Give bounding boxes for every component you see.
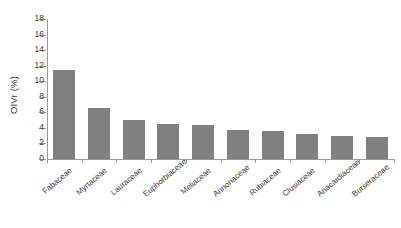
- x-tick-mark: [116, 159, 117, 163]
- bar: [296, 134, 318, 159]
- x-tick-mark: [47, 159, 48, 163]
- bar: [88, 108, 110, 159]
- bar: [157, 124, 179, 159]
- y-tick-label: 14: [35, 44, 44, 55]
- y-tick-label: 2: [39, 137, 44, 148]
- y-axis-title: OIVr (%): [8, 50, 19, 140]
- bar: [192, 125, 214, 159]
- x-tick-mark: [82, 159, 83, 163]
- x-axis-label: Anacardiaceae: [315, 166, 351, 199]
- x-axis-label: Meliaceae: [176, 166, 212, 199]
- x-tick-mark: [394, 159, 395, 163]
- x-axis-label: Euphorbiaceae: [142, 166, 178, 199]
- bar: [53, 70, 75, 159]
- y-tick-label: 16: [35, 29, 44, 40]
- bar: [227, 130, 249, 159]
- x-axis-label: Clusiaceae: [281, 166, 317, 199]
- x-tick-mark: [290, 159, 291, 163]
- bar: [123, 120, 145, 159]
- x-axis-label: Annonaceae: [211, 166, 247, 199]
- x-tick-mark: [151, 159, 152, 163]
- x-axis-label: Fabaceae: [38, 166, 74, 199]
- y-tick-label: 12: [35, 60, 44, 71]
- x-axis-label: Burseraceae: [350, 166, 386, 199]
- x-tick-mark: [325, 159, 326, 163]
- y-tick-label: 18: [35, 13, 44, 24]
- bar-chart: OIVr (%) 024681012141618 FabaceaeMyrtace…: [0, 0, 401, 228]
- y-tick-label: 8: [39, 91, 44, 102]
- bar: [262, 131, 284, 159]
- y-tick-label: 4: [39, 122, 44, 133]
- y-tick-label: 6: [39, 106, 44, 117]
- bar: [366, 137, 388, 159]
- bar: [331, 136, 353, 159]
- x-axis-label: Myrtaceae: [72, 166, 108, 199]
- y-tick-label: 10: [35, 75, 44, 86]
- x-tick-mark: [221, 159, 222, 163]
- x-axis-label: Rubiaceae: [246, 166, 282, 199]
- plot-area: 024681012141618: [47, 19, 394, 159]
- x-axis-label: Lauraceae: [107, 166, 143, 199]
- x-tick-mark: [255, 159, 256, 163]
- y-tick-label: 0: [39, 153, 44, 164]
